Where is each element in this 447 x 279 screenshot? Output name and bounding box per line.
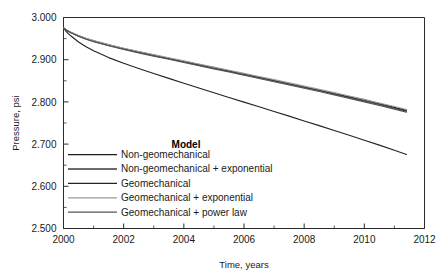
legend-entry: Non-geomechanical + exponential xyxy=(68,163,273,174)
x-tick-label: 2008 xyxy=(293,234,316,245)
legend-entry: Non-geomechanical xyxy=(68,149,210,160)
y-tick-label: 2.700 xyxy=(31,139,56,150)
legend-label: Geomechanical + power law xyxy=(121,207,248,218)
series-line xyxy=(64,28,407,111)
legend-label: Non-geomechanical xyxy=(121,149,210,160)
chart-legend: Model Non-geomechanicalNon-geomechanical… xyxy=(68,139,273,218)
x-tick-label: 2000 xyxy=(52,234,75,245)
legend-entry: Geomechanical + exponential xyxy=(68,192,253,203)
x-tick-label: 2004 xyxy=(173,234,196,245)
x-tick-label: 2006 xyxy=(233,234,256,245)
y-axis-title: Pressure, psi xyxy=(10,95,21,150)
x-tick-label: 2010 xyxy=(353,234,376,245)
legend-entry: Geomechanical xyxy=(68,178,190,189)
legend-label: Geomechanical xyxy=(121,178,190,189)
legend-label: Geomechanical + exponential xyxy=(121,192,253,203)
y-tick-label: 3.000 xyxy=(31,12,56,23)
data-series-group xyxy=(64,28,407,155)
legend-entry-list: Non-geomechanicalNon-geomechanical + exp… xyxy=(68,149,273,218)
line-chart: 2.5002.6002.7002.8002.9003.0002000200220… xyxy=(0,0,447,279)
x-tick-label: 2012 xyxy=(413,234,436,245)
y-tick-label: 2.800 xyxy=(31,97,56,108)
legend-entry: Geomechanical + power law xyxy=(68,207,248,218)
x-axis-title: Time, years xyxy=(219,259,269,270)
y-tick-label: 2.600 xyxy=(31,181,56,192)
series-line xyxy=(64,28,407,110)
legend-label: Non-geomechanical + exponential xyxy=(121,163,273,174)
x-tick-label: 2002 xyxy=(113,234,136,245)
y-tick-label: 2.500 xyxy=(31,223,56,234)
chart-figure: 2.5002.6002.7002.8002.9003.0002000200220… xyxy=(0,0,447,279)
series-line xyxy=(64,28,407,111)
y-tick-label: 2.900 xyxy=(31,54,56,65)
